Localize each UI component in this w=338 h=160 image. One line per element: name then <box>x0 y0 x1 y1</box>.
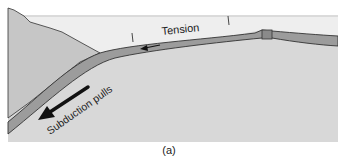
spreading-ridge <box>262 30 272 39</box>
subduction-diagram: Tension Subduction pulls <box>0 0 338 160</box>
figure-caption: (a) <box>0 144 338 156</box>
